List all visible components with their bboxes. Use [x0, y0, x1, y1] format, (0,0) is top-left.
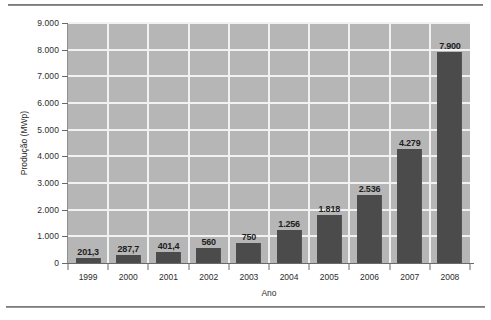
- bar-value-label: 287,7: [118, 244, 140, 254]
- x-axis-category-label: 2005: [320, 272, 339, 282]
- bar[interactable]: 750: [236, 243, 261, 263]
- bar-slot: 1.818: [309, 23, 349, 263]
- x-axis-tick: [228, 263, 229, 270]
- x-axis-tick: [188, 263, 189, 270]
- x-axis-category-label: 2006: [360, 272, 379, 282]
- plot-area: 01.0002.0003.0004.0005.0006.0007.0008.00…: [68, 23, 470, 263]
- x-axis-category-label: 1999: [79, 272, 98, 282]
- bar-value-label: 1.818: [319, 204, 341, 214]
- bar-value-label: 201,3: [77, 247, 99, 257]
- bar-value-label: 7.900: [439, 41, 461, 51]
- bar[interactable]: 287,7: [116, 255, 141, 263]
- x-axis-tick: [148, 263, 149, 270]
- bar[interactable]: 7.900: [437, 52, 462, 263]
- y-axis-tick-label: 8.000: [37, 45, 68, 55]
- bar-slot: 7.900: [430, 23, 470, 263]
- x-axis-category-label: 2002: [199, 272, 218, 282]
- bar-value-label: 401,4: [158, 241, 180, 251]
- x-axis-category-label: 2004: [280, 272, 299, 282]
- x-axis-title: Ano: [261, 288, 276, 298]
- bar[interactable]: 4.279: [397, 149, 422, 263]
- bar-slot: 2.536: [349, 23, 389, 263]
- bar[interactable]: 1.256: [277, 230, 302, 263]
- bar-value-label: 1.256: [278, 219, 300, 229]
- bar-slot: 4.279: [390, 23, 430, 263]
- y-axis-tick-label: 7.000: [37, 71, 68, 81]
- bar-slot: 201,3: [68, 23, 108, 263]
- chart-page: Produção (MWp) 01.0002.0003.0004.0005.00…: [0, 0, 491, 320]
- bar-value-label: 750: [242, 232, 256, 242]
- y-axis-tick-label: 3.000: [37, 178, 68, 188]
- x-axis-tick: [68, 263, 69, 270]
- x-axis-tick: [349, 263, 350, 270]
- y-axis-tick-label: 6.000: [37, 98, 68, 108]
- bar-chart: Produção (MWp) 01.0002.0003.0004.0005.00…: [0, 0, 491, 320]
- bar-slot: 750: [229, 23, 269, 263]
- y-axis-tick-label: 1.000: [37, 231, 68, 241]
- y-axis-tick-label: 5.000: [37, 125, 68, 135]
- x-axis-category-label: 2000: [119, 272, 138, 282]
- y-axis-tick-label: 9.000: [37, 18, 68, 28]
- bar-value-label: 2.536: [359, 184, 381, 194]
- y-axis-tick-label: 4.000: [37, 151, 68, 161]
- bar-value-label: 560: [201, 237, 215, 247]
- x-axis-category-label: 2008: [440, 272, 459, 282]
- x-axis-category-label: 2001: [159, 272, 178, 282]
- y-axis-title: Produção (MWp): [19, 111, 29, 175]
- x-axis-tick: [389, 263, 390, 270]
- bar[interactable]: 2.536: [357, 195, 382, 263]
- x-axis-category-label: 2003: [239, 272, 258, 282]
- bar[interactable]: 560: [196, 248, 221, 263]
- bar-slot: 287,7: [108, 23, 148, 263]
- bar[interactable]: 401,4: [156, 252, 181, 263]
- x-axis-tick: [429, 263, 430, 270]
- bar-slot: 1.256: [269, 23, 309, 263]
- bar[interactable]: 1.818: [317, 215, 342, 263]
- x-axis-tick: [309, 263, 310, 270]
- y-axis-tick-label: 2.000: [37, 205, 68, 215]
- x-axis-tick: [470, 263, 471, 270]
- x-axis-tick: [269, 263, 270, 270]
- bar-value-label: 4.279: [399, 138, 421, 148]
- bar-slot: 401,4: [148, 23, 188, 263]
- bar-slot: 560: [189, 23, 229, 263]
- x-axis-tick: [108, 263, 109, 270]
- x-axis-category-label: 2007: [400, 272, 419, 282]
